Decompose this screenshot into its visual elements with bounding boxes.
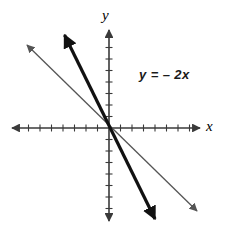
equation-label: y = – 2x [139,67,190,82]
coordinate-plane-svg [0,0,230,241]
x-axis-label: x [206,119,213,134]
y-axis-label: y [102,8,109,23]
graph-figure: y x y = – 2x [0,0,230,241]
